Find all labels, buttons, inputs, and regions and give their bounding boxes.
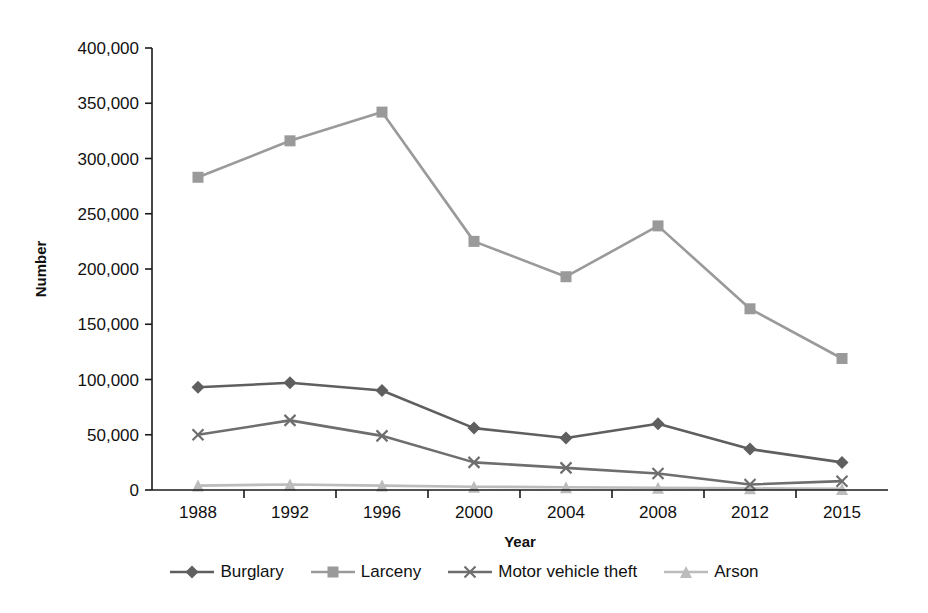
data-series-group <box>192 107 849 495</box>
data-point-marker <box>284 376 297 389</box>
data-point-marker <box>327 567 338 578</box>
data-point-marker <box>468 422 481 435</box>
series-burglary <box>192 376 849 469</box>
legend-item-motor-vehicle-theft[interactable]: Motor vehicle theft <box>447 562 637 582</box>
y-axis-title: Number <box>32 241 49 298</box>
legend-item-larceny[interactable]: Larceny <box>310 562 421 582</box>
legend-marker-square-icon <box>310 563 356 581</box>
chart-plot-area: 050,000100,000150,000200,000250,000300,0… <box>0 0 928 613</box>
data-point-marker <box>186 566 199 579</box>
x-axis-tick-label: 2008 <box>639 503 677 522</box>
x-axis-tick-label: 2015 <box>823 503 861 522</box>
series-larceny <box>193 107 848 364</box>
legend-item-label: Burglary <box>220 562 283 582</box>
legend-item-burglary[interactable]: Burglary <box>169 562 283 582</box>
series-line <box>198 420 842 484</box>
data-point-marker <box>376 384 389 397</box>
x-axis-tick-label: 2004 <box>547 503 585 522</box>
data-point-marker <box>377 107 388 118</box>
y-axis-tick-label: 100,000 <box>78 371 139 390</box>
legend-item-label: Arson <box>714 562 758 582</box>
x-axis-tick-group: 19881992199620002004200820122015 <box>179 490 861 522</box>
data-point-marker <box>653 220 664 231</box>
y-axis-tick-label: 300,000 <box>78 150 139 169</box>
y-axis-tick-label: 50,000 <box>87 426 139 445</box>
x-axis-tick-label: 1996 <box>363 503 401 522</box>
chart-legend: BurglaryLarcenyMotor vehicle theftArson <box>0 562 928 582</box>
y-axis-tick-label: 200,000 <box>78 260 139 279</box>
x-axis-title: Year <box>504 533 536 550</box>
data-point-marker <box>192 381 205 394</box>
data-point-marker <box>285 135 296 146</box>
data-point-marker <box>652 417 665 430</box>
data-point-marker <box>744 443 757 456</box>
x-axis-tick-label: 1992 <box>271 503 309 522</box>
data-point-marker <box>560 432 573 445</box>
line-chart: 050,000100,000150,000200,000250,000300,0… <box>0 0 928 613</box>
legend-item-label: Larceny <box>361 562 421 582</box>
legend-item-arson[interactable]: Arson <box>663 562 758 582</box>
legend-item-label: Motor vehicle theft <box>498 562 637 582</box>
x-axis-tick-label: 1988 <box>179 503 217 522</box>
data-point-marker <box>836 456 849 469</box>
legend-marker-x-icon <box>447 563 493 581</box>
data-point-marker <box>561 271 572 282</box>
series-line <box>198 112 842 358</box>
legend-marker-diamond-icon <box>169 563 215 581</box>
y-axis-tick-label: 150,000 <box>78 315 139 334</box>
data-point-marker <box>469 236 480 247</box>
y-axis-tick-label: 400,000 <box>78 39 139 58</box>
data-point-marker <box>837 353 848 364</box>
y-axis-tick-label: 350,000 <box>78 94 139 113</box>
y-axis-tick-label: 250,000 <box>78 205 139 224</box>
legend-marker-triangle-icon <box>663 563 709 581</box>
x-axis-tick-label: 2000 <box>455 503 493 522</box>
y-axis-tick-group: 050,000100,000150,000200,000250,000300,0… <box>78 39 152 500</box>
data-point-marker <box>745 303 756 314</box>
y-axis-tick-label: 0 <box>130 481 139 500</box>
data-point-marker <box>193 172 204 183</box>
x-axis-tick-label: 2012 <box>731 503 769 522</box>
